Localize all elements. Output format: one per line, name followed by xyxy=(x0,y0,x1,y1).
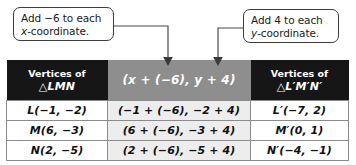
callout-right-suffix: to each xyxy=(281,14,323,26)
callout-x-coordinate: Add −6 to each x-coordinate. xyxy=(13,7,114,41)
callout-left-line2: x-coordinate. xyxy=(21,25,107,38)
worked-example-figure: Add −6 to each x-coordinate. Add 4 to ea… xyxy=(0,0,356,165)
callout-right-line1: Add 4 to each xyxy=(251,14,332,27)
callout-left-rest: -coordinate. xyxy=(27,25,89,37)
callout-left-suffix: to each xyxy=(60,12,102,24)
callout-right-prefix: Add xyxy=(251,14,274,26)
callout-left-prefix: Add xyxy=(21,12,44,24)
callout-right-value: 4 xyxy=(274,14,281,26)
connector-path-left xyxy=(114,26,168,58)
callout-y-coordinate: Add 4 to each y-coordinate. xyxy=(243,9,339,43)
arrowhead-right-icon xyxy=(213,57,223,66)
callout-right-rest: -coordinate. xyxy=(257,27,319,39)
callout-right-line2: y-coordinate. xyxy=(251,27,332,40)
connector-path-right xyxy=(218,28,243,58)
callout-left-line1: Add −6 to each xyxy=(21,12,107,25)
arrowhead-left-icon xyxy=(163,57,173,66)
callout-left-value: −6 xyxy=(44,12,59,24)
